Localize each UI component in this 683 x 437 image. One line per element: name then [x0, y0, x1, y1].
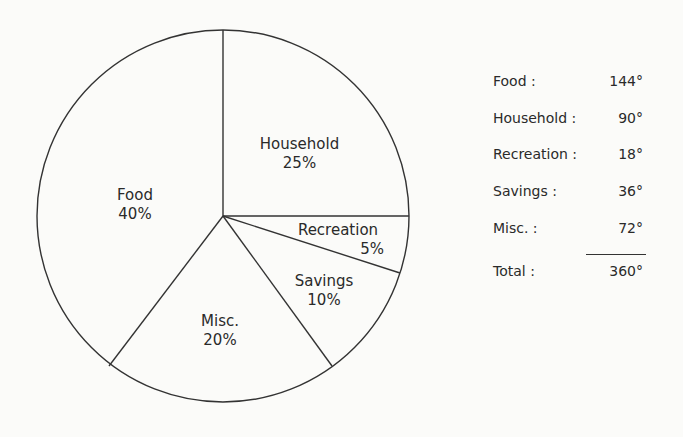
slice-name: Recreation	[288, 221, 388, 240]
legend-row-savings: Savings : 36°	[493, 183, 643, 203]
legend-value: 144°	[609, 73, 643, 89]
legend-row-food: Food : 144°	[493, 73, 643, 93]
slice-percent: 5%	[288, 240, 388, 259]
slice-label-recreation: Recreation 5%	[288, 221, 388, 259]
slice-name: Misc.	[185, 312, 255, 331]
slice-percent: 40%	[100, 205, 170, 224]
legend-row-household: Household : 90°	[493, 110, 643, 130]
sum-underline	[586, 254, 646, 255]
slice-label-savings: Savings 10%	[284, 272, 364, 310]
legend-value: 360°	[609, 263, 643, 279]
slice-name: Savings	[284, 272, 364, 291]
slice-percent: 25%	[252, 154, 347, 173]
legend-name: Total :	[493, 263, 535, 279]
slice-percent: 20%	[185, 331, 255, 350]
legend-name: Food :	[493, 73, 536, 89]
legend-value: 18°	[618, 146, 643, 162]
slice-label-food: Food 40%	[100, 186, 170, 224]
slice-name: Household	[252, 135, 347, 154]
legend-value: 72°	[618, 220, 643, 236]
legend-name: Household :	[493, 110, 576, 126]
legend-value: 90°	[618, 110, 643, 126]
legend-name: Recreation :	[493, 146, 577, 162]
slice-label-household: Household 25%	[252, 135, 347, 173]
legend-row-total: Total : 360°	[493, 263, 643, 283]
legend-row-misc: Misc. : 72°	[493, 220, 643, 240]
slice-label-misc: Misc. 20%	[185, 312, 255, 350]
legend-name: Misc. :	[493, 220, 538, 236]
slice-name: Food	[100, 186, 170, 205]
legend-row-recreation: Recreation : 18°	[493, 146, 643, 166]
slice-percent: 10%	[284, 291, 364, 310]
legend-value: 36°	[618, 183, 643, 199]
legend-name: Savings :	[493, 183, 557, 199]
